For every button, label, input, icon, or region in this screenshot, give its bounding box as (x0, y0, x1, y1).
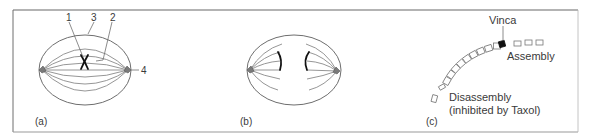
dissociated-subunits (431, 84, 446, 103)
assembly-label: Assembly (507, 50, 555, 62)
polymer-subunit (484, 44, 492, 52)
dissociated-subunit (431, 95, 438, 103)
taxol-label: (inhibited by Taxol) (449, 104, 541, 116)
panel-a: 1 3 2 4 (a) (35, 12, 147, 127)
polymer-subunit (476, 47, 485, 55)
panel-c-caption: (c) (426, 116, 438, 127)
spindle-fiber (307, 70, 337, 71)
leader-line-2 (96, 22, 112, 61)
vinca-bound-subunit (498, 40, 505, 47)
microtubule-polymer (443, 43, 501, 86)
dissociated-subunit (438, 84, 445, 90)
disassembly-label: Disassembly (449, 91, 512, 103)
leader-line-3 (88, 22, 94, 34)
spindle-fiber (42, 70, 128, 77)
vinca-label: Vinca (489, 14, 517, 26)
label-4: 4 (141, 65, 147, 76)
spindle-fiber (307, 71, 337, 79)
free-tubulin-subunit (536, 40, 543, 45)
free-tubulin-subunit (525, 40, 532, 45)
spindle-fiber (250, 70, 280, 79)
label-3: 3 (91, 12, 97, 23)
spindle-fiber (250, 70, 278, 90)
spindle-fibers-right (306, 44, 337, 90)
label-2: 2 (110, 12, 116, 23)
label-1: 1 (66, 12, 72, 23)
free-tubulin-subunit (514, 41, 521, 46)
panel-a-caption: (a) (35, 116, 47, 127)
figure-canvas: 1 3 2 4 (a) (b) (0, 0, 589, 139)
spindle-fibers (42, 49, 128, 91)
chromosome-x (81, 55, 88, 69)
panel-c: Vinca Assembly Disassembly (inhibited by… (426, 14, 555, 127)
leader-line-1 (69, 22, 83, 57)
free-tubulin-subunits (514, 40, 543, 46)
panel-b: (b) (240, 35, 341, 127)
spindle-fiber (309, 71, 337, 90)
panel-b-caption: (b) (240, 116, 252, 127)
